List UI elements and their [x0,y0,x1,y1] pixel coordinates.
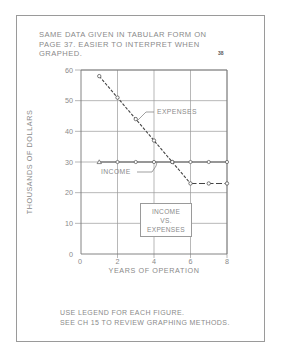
y-tick-label: 20 [65,188,73,197]
y-tick-label: 60 [65,66,73,75]
expenses-marker [189,182,192,185]
income-marker [207,160,210,163]
legend-line-2: VS. [141,216,191,225]
bottom-note: USE LEGEND FOR EACH FIGURE. SEE CH 15 TO… [60,308,230,328]
x-axis-label: YEARS OF OPERATION [109,266,200,275]
income-marker [116,160,119,163]
expenses-marker [152,139,155,142]
expenses-marker [98,74,101,77]
income-marker [225,160,228,163]
legend-line-1: INCOME [141,207,191,216]
x-tick-label: 8 [225,257,229,266]
income-marker [134,160,137,163]
y-tick-label: 0 [69,250,73,259]
x-tick-label: 0 [78,257,82,266]
x-tick-label: 4 [152,257,156,266]
income-callout: INCOME [101,168,131,175]
income-marker [152,160,155,163]
bottom-note-line-2: SEE CH 15 TO REVIEW GRAPHING METHODS. [60,318,230,328]
expenses-callout: EXPENSES [157,108,197,115]
expenses-marker [171,160,174,163]
line-chart: 010203040506002468 [0,0,281,359]
income-marker [189,160,192,163]
expenses-marker [134,117,137,120]
legend-line-3: EXPENSES [141,225,191,234]
chart-title-legend: INCOME VS. EXPENSES [140,203,192,237]
x-tick-label: 6 [189,257,193,266]
expenses-marker [116,96,119,99]
expenses-marker [207,182,210,185]
y-tick-label: 10 [65,219,73,228]
y-tick-label: 30 [65,158,73,167]
y-tick-label: 50 [65,96,73,105]
y-tick-label: 40 [65,127,73,136]
bottom-note-line-1: USE LEGEND FOR EACH FIGURE. [60,308,230,318]
expenses-marker [225,182,228,185]
y-axis-label: THOUSANDS OF DOLLARS [25,110,34,215]
x-tick-label: 2 [116,257,120,266]
